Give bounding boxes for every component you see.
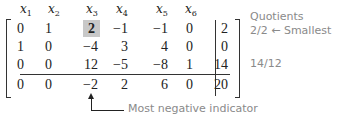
annotation-label: Most negative indicator bbox=[128, 102, 258, 115]
pivot-cell: 2 bbox=[83, 20, 100, 37]
cell-r3-c1: 0 bbox=[24, 77, 52, 93]
header-x3: x3 bbox=[80, 2, 104, 18]
cell-r0-c0: 0 bbox=[0, 21, 24, 37]
quotient-row0: 2/2 ← Smallest bbox=[250, 24, 331, 37]
cell-r0-c5: 0 bbox=[165, 21, 193, 37]
rhs-r2: 14 bbox=[200, 57, 228, 73]
cell-r2-c3: −5 bbox=[100, 57, 128, 73]
cell-r1-c4: 4 bbox=[140, 39, 168, 55]
right-bracket bbox=[235, 19, 240, 98]
rhs-r3: 20 bbox=[200, 77, 228, 93]
cell-r2-c2: 12 bbox=[70, 57, 98, 73]
cell-r2-c0: 0 bbox=[0, 57, 24, 73]
indicator-row-divider bbox=[20, 74, 230, 75]
cell-r3-c3: 2 bbox=[100, 77, 128, 93]
cell-r2-c4: −8 bbox=[140, 57, 168, 73]
indicator-most-negative: −2 bbox=[70, 77, 98, 93]
cell-r3-c5: 0 bbox=[165, 77, 193, 93]
cell-r1-c0: 1 bbox=[0, 39, 24, 55]
cell-r2-c1: 0 bbox=[24, 57, 52, 73]
cell-r3-c4: 6 bbox=[140, 77, 168, 93]
cell-r0-c3: −1 bbox=[100, 21, 128, 37]
header-x6: x6 bbox=[179, 2, 203, 18]
header-x5: x5 bbox=[150, 2, 174, 18]
simplex-tableau-figure: x1 x2 x3 x4 x5 x6 0 1 2 −1 −1 0 2 1 0 −4… bbox=[0, 0, 341, 119]
rhs-r1: 0 bbox=[200, 39, 228, 55]
cell-r1-c1: 0 bbox=[24, 39, 52, 55]
cell-r1-c2: −4 bbox=[70, 39, 98, 55]
rhs-r0: 2 bbox=[200, 21, 228, 37]
header-x1: x1 bbox=[14, 2, 38, 18]
header-x2: x2 bbox=[42, 2, 66, 18]
cell-r0-c4: −1 bbox=[140, 21, 168, 37]
cell-r1-c5: 0 bbox=[165, 39, 193, 55]
arrow-stem bbox=[91, 97, 92, 110]
arrow-leader bbox=[91, 110, 124, 111]
header-x4: x4 bbox=[110, 2, 134, 18]
quotient-row2: 14/12 bbox=[250, 57, 282, 70]
cell-r2-c5: 1 bbox=[165, 57, 193, 73]
cell-r1-c3: 3 bbox=[100, 39, 128, 55]
cell-r3-c0: 0 bbox=[0, 77, 24, 93]
quotients-title: Quotients bbox=[250, 10, 304, 23]
cell-r0-c1: 1 bbox=[24, 21, 52, 37]
